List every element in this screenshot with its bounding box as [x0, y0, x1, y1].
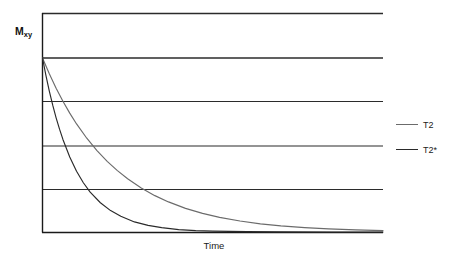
- legend-swatch-t2: [396, 124, 418, 125]
- series-line-t2: [43, 58, 384, 231]
- legend-swatch-t2star: [396, 149, 418, 150]
- chart-figure: Mxy Time T2 T2*: [0, 0, 456, 263]
- y-axis-title: Mxy: [15, 25, 32, 39]
- gridlines: [42, 14, 383, 190]
- legend-item-t2star[interactable]: T2*: [396, 137, 456, 162]
- chart-legend: T2 T2*: [396, 112, 456, 162]
- x-axis-title-text: Time: [204, 240, 225, 251]
- y-axis-title-subscript: xy: [24, 30, 32, 39]
- x-axis-title: Time: [0, 240, 456, 251]
- legend-label-t2star: T2*: [423, 145, 437, 155]
- chart-plot-area: [0, 0, 456, 263]
- series-line-t2star: [43, 58, 384, 232]
- legend-item-t2[interactable]: T2: [396, 112, 456, 137]
- legend-label-t2: T2: [423, 120, 434, 130]
- y-axis-title-base: M: [15, 25, 24, 37]
